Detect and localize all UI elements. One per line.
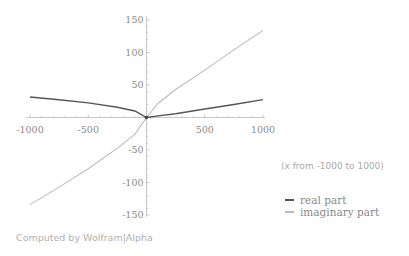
legend-item-real: real part xyxy=(285,194,379,206)
legend-label-imaginary: imaginary part xyxy=(300,206,379,218)
credit-text: Computed by Wolfram|Alpha xyxy=(16,232,153,243)
y-tick-label: 100 xyxy=(125,47,143,58)
legend-swatch-imaginary xyxy=(285,211,294,213)
legend-swatch-real xyxy=(285,199,294,201)
origin-point xyxy=(145,116,149,120)
y-tick-label: -100 xyxy=(122,177,143,188)
legend: real part imaginary part xyxy=(285,194,379,218)
x-tick-label: -500 xyxy=(78,124,99,135)
y-tick-label: -50 xyxy=(128,144,143,155)
y-tick-label: -150 xyxy=(122,209,143,220)
y-tick-label: 150 xyxy=(125,14,143,25)
y-tick-label: 50 xyxy=(131,79,143,90)
legend-label-real: real part xyxy=(300,194,346,206)
x-tick-label: 1000 xyxy=(251,124,275,135)
x-tick-label: -1000 xyxy=(16,124,43,135)
legend-item-imaginary: imaginary part xyxy=(285,206,379,218)
x-tick-label: 500 xyxy=(196,124,214,135)
x-range-note: (x from -1000 to 1000) xyxy=(281,161,384,171)
